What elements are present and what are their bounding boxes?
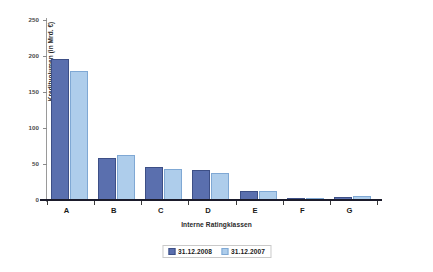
y-tick-label: 0 (5, 196, 39, 203)
x-tick-label-c: C (146, 206, 176, 215)
x-tick-mark (330, 201, 331, 205)
bars-layer (47, 20, 377, 200)
bar-d-31.12.2008 (192, 170, 210, 200)
y-tick-label: 200 (5, 52, 39, 59)
x-tick-label-g: G (334, 206, 364, 215)
bar-a-31.12.2007 (70, 71, 88, 200)
bar-group-f (283, 20, 330, 200)
bar-group-b (94, 20, 141, 200)
bar-group-a (47, 20, 94, 200)
bar-group-e (236, 20, 283, 200)
x-tick-mark (236, 201, 237, 205)
y-tick-label: 250 (5, 16, 39, 23)
x-tick-mark (188, 201, 189, 205)
legend-swatch-icon (221, 248, 228, 255)
bar-d-31.12.2007 (211, 173, 229, 200)
x-tick-label-f: F (287, 206, 317, 215)
bar-group-c (141, 20, 188, 200)
legend-label: 31.12.2007 (231, 248, 265, 255)
legend-swatch-icon (168, 248, 175, 255)
x-tick-label-a: A (52, 206, 82, 215)
x-tick-label-e: E (240, 206, 270, 215)
bar-b-31.12.2008 (98, 158, 116, 200)
legend-entry-31.12.2007[interactable]: 31.12.2007 (221, 248, 265, 255)
bar-chart-figure: 250200150100500 Kreditvolumen (in Mrd. €… (0, 0, 433, 272)
x-tick-mark (377, 201, 378, 205)
bar-c-31.12.2008 (145, 167, 163, 200)
chart-legend: 31.12.200831.12.2007 (162, 245, 271, 258)
x-axis-title: Interne Ratingklassen (0, 221, 433, 228)
y-tick-label: 50 (5, 160, 39, 167)
bar-c-31.12.2007 (164, 169, 182, 200)
x-tick-mark (47, 201, 48, 205)
x-tick-label-d: D (193, 206, 223, 215)
y-tick-label: 100 (5, 124, 39, 131)
x-tick-mark (141, 201, 142, 205)
x-tick-mark (94, 201, 95, 205)
bar-group-d (188, 20, 235, 200)
legend-entry-31.12.2008[interactable]: 31.12.2008 (168, 248, 212, 255)
x-tick-label-b: B (99, 206, 129, 215)
bar-a-31.12.2008 (51, 59, 69, 200)
bar-group-g (330, 20, 377, 200)
y-tick-label: 150 (5, 88, 39, 95)
bar-b-31.12.2007 (117, 155, 135, 200)
legend-label: 31.12.2008 (178, 248, 212, 255)
x-tick-mark (283, 201, 284, 205)
